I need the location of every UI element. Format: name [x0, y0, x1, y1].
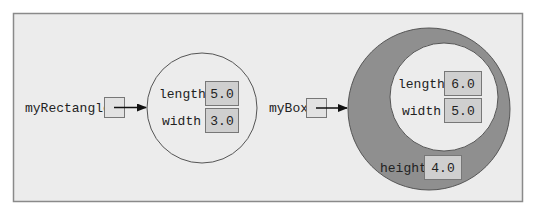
box-field-height-label: height [380, 161, 427, 176]
box-field-width-label: width [402, 104, 441, 119]
box-object: length 6.0 width 5.0 height 4.0 [348, 28, 510, 190]
rectangle-field-length-label: length [159, 87, 206, 102]
object-diagram: myRectangle length 5.0 width 3.0 myBox l… [0, 0, 534, 214]
rectangle-variable-label: myRectangle [25, 101, 111, 116]
rectangle-object: length 5.0 width 3.0 [147, 53, 257, 163]
rectangle-object-circle [147, 53, 257, 163]
box-superclass-inner-circle [390, 43, 498, 151]
box-field-length-value: 6.0 [451, 77, 474, 92]
box-field-height-value: 4.0 [431, 161, 454, 176]
box-field-length-label: length [398, 77, 445, 92]
box-variable-label: myBox [269, 101, 308, 116]
rectangle-field-width-value: 3.0 [210, 114, 233, 129]
rectangle-field-length-value: 5.0 [210, 87, 233, 102]
box-field-width-value: 5.0 [451, 104, 474, 119]
rectangle-field-width-label: width [162, 114, 201, 129]
